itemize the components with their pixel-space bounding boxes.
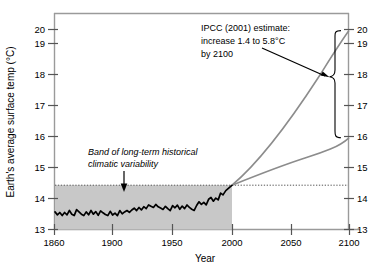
- xtick-1860: 1860: [43, 237, 64, 248]
- ytick-right-17: 17: [357, 100, 368, 111]
- xtick-2000: 2000: [221, 237, 242, 248]
- xtick-1900: 1900: [101, 237, 122, 248]
- xtick-1950: 1950: [161, 237, 182, 248]
- y-axis-left-labels: 13 14 15 16 17 18 19 20: [34, 24, 45, 235]
- ytick-right-20: 20: [357, 24, 368, 35]
- x-axis-labels: 1860 1900 1950 2000 2050 2100: [43, 237, 359, 248]
- ytick-left-13: 13: [34, 224, 45, 235]
- ytick-left-17: 17: [34, 100, 45, 111]
- ipcc-annotation: IPCC (2001) estimate: increase 1.4 to 5.…: [201, 23, 330, 77]
- ipcc-annotation-line1: IPCC (2001) estimate:: [201, 23, 290, 33]
- climate-projection-chart: 13 14 15 16 17 18 19 20 13 14 15 16 17: [0, 0, 376, 272]
- ipcc-annotation-line3: by 2100: [201, 49, 233, 59]
- chart-figure: 13 14 15 16 17 18 19 20 13 14 15 16 17: [0, 0, 376, 272]
- projection-low-curve: [232, 138, 349, 185]
- y-axis-title: Earth's average surface temp (°C): [5, 47, 16, 198]
- band-annotation-line2: climatic variability: [88, 159, 159, 169]
- ytick-right-18: 18: [357, 69, 368, 80]
- projection-range-brace: [330, 31, 342, 138]
- ytick-left-15: 15: [34, 162, 45, 173]
- x-axis-title: Year: [195, 253, 216, 264]
- ipcc-annotation-line2: increase 1.4 to 5.8°C: [201, 36, 286, 46]
- ytick-right-13: 13: [357, 224, 368, 235]
- y-axis-right-labels: 13 14 15 16 17 18 19 20: [357, 24, 368, 235]
- ytick-left-14: 14: [34, 193, 45, 204]
- ytick-right-19: 19: [357, 38, 368, 49]
- ytick-right-15: 15: [357, 162, 368, 173]
- band-annotation-line1: Band of long-term historical: [88, 147, 199, 157]
- ytick-right-14: 14: [357, 193, 368, 204]
- ytick-left-18: 18: [34, 69, 45, 80]
- xtick-2100: 2100: [338, 237, 359, 248]
- ytick-left-20: 20: [34, 24, 45, 35]
- ytick-right-16: 16: [357, 131, 368, 142]
- projection-high-curve: [232, 31, 349, 186]
- xtick-2050: 2050: [280, 237, 301, 248]
- ytick-left-16: 16: [34, 131, 45, 142]
- ipcc-annotation-leader: [262, 48, 325, 76]
- ytick-left-19: 19: [34, 38, 45, 49]
